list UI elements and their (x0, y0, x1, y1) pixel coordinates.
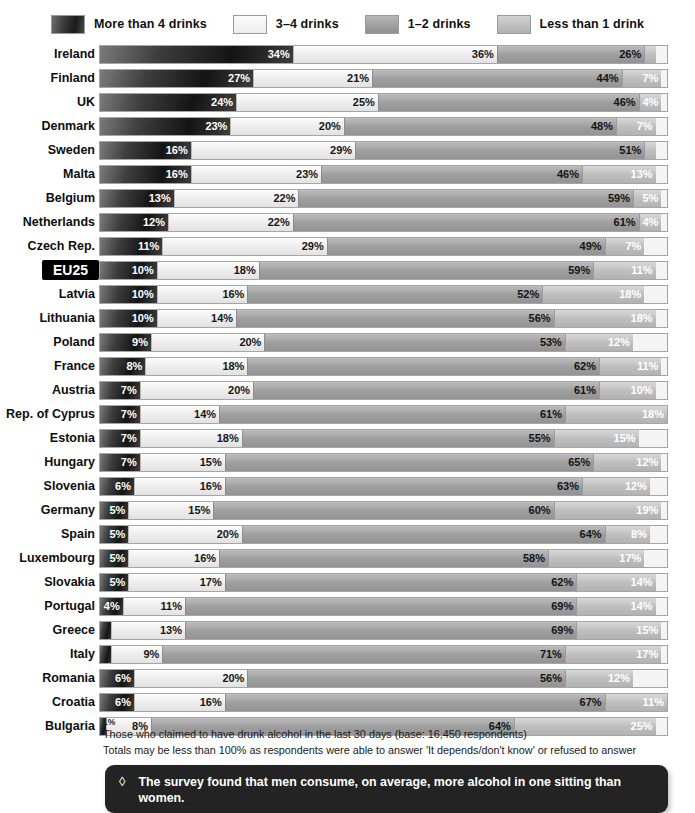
chart-row: Slovakia5%17%62%14% (0, 570, 695, 594)
bar-segment-value: 7% (121, 408, 140, 420)
bar-segment-value: 16% (194, 552, 219, 564)
footnotes: Those who claimed to have drunk alcohol … (103, 726, 683, 758)
chart-row: Greece2%13%69%15% (0, 618, 695, 642)
bar-segment-3: 17% (548, 550, 644, 567)
bar-segment-2: 71% (162, 646, 565, 663)
bar-segment-value: 5% (109, 552, 128, 564)
chart-row: Germany5%15%60%19% (0, 498, 695, 522)
chart-row: France8%18%62%11% (0, 354, 695, 378)
bar-segment-value: 61% (614, 216, 639, 228)
row-label-latvia: Latvia (0, 287, 99, 301)
bar-segment-3: 18% (554, 310, 656, 327)
bar-segment-1: 14% (140, 406, 219, 423)
bar-segment-value: 23% (205, 120, 230, 132)
bar-segment-1: 18% (157, 262, 259, 279)
bar-segment-2: 61% (293, 214, 639, 231)
bar-segment-value: 18% (642, 408, 667, 420)
bar-segment-3: 12% (593, 454, 661, 471)
bar-segment-3: 19% (554, 502, 662, 519)
bar-segment-value: 17% (200, 576, 225, 588)
row-label-romania: Romania (0, 671, 99, 685)
stacked-bar: 5%15%60%19% (99, 501, 668, 520)
bar-segment-0: 12% (100, 214, 168, 231)
bar-segment-1: 20% (128, 526, 241, 543)
bar-segment-2: 58% (219, 550, 548, 567)
bar-segment-3: 14% (576, 598, 655, 615)
bar-segment-value: 18% (222, 360, 247, 372)
bar-segment-3: 11% (599, 358, 661, 375)
bar-segment-1: 36% (293, 46, 497, 63)
bar-segment-value: 59% (568, 264, 593, 276)
bar-segment-2: 46% (321, 166, 582, 183)
bar-segment-value: 53% (540, 336, 565, 348)
bar-segment-value: 52% (517, 288, 542, 300)
bar-segment-value: 25% (353, 96, 378, 108)
chart-row: Slovenia6%16%63%12% (0, 474, 695, 498)
row-label-netherlands: Netherlands (0, 215, 99, 229)
chart-row: Latvia10%16%52%18% (0, 282, 695, 306)
chart-row: Croatia6%16%67%11% (0, 690, 695, 714)
bar-segment-value: 11% (161, 600, 185, 612)
stacked-bar: 11%29%49%7% (99, 237, 668, 256)
bar-segment-value: 59% (608, 192, 633, 204)
chart-row: Poland9%20%53%12% (0, 330, 695, 354)
stacked-bar: 7%18%55%15% (99, 429, 668, 448)
bar-segment-0: 24% (100, 94, 236, 111)
bar-segment-value: 7% (121, 432, 140, 444)
chart-legend: More than 4 drinks3–4 drinks1–2 drinksLe… (0, 12, 695, 36)
bar-segment-2: 48% (344, 118, 616, 135)
bar-segment-value: 71% (540, 648, 565, 660)
bar-segment-value: 58% (523, 552, 548, 564)
row-label-lithuania: Lithuania (0, 311, 99, 325)
bar-segment-0: 2% (100, 646, 111, 663)
stacked-bar: 5%16%58%17% (99, 549, 668, 568)
stacked-bar: 8%18%62%11% (99, 357, 668, 376)
bar-segment-value: 56% (540, 672, 565, 684)
row-label-hungary: Hungary (0, 455, 99, 469)
bar-segment-value: 20% (319, 120, 344, 132)
bar-segment-value: 9% (143, 648, 162, 660)
row-label-finland: Finland (0, 71, 99, 85)
bar-segment-3: 13% (582, 166, 656, 183)
bar-segment-3: 7% (605, 238, 645, 255)
bar-segment-2: 65% (225, 454, 594, 471)
bar-segment-value: 44% (597, 72, 622, 84)
bar-segment-value: 7% (121, 384, 140, 396)
bar-segment-2: 63% (225, 478, 582, 495)
stacked-bar: 13%22%59%5% (99, 189, 668, 208)
bar-segment-value: 22% (268, 216, 293, 228)
bar-segment-0: 5% (100, 574, 128, 591)
bar-segment-2: 56% (236, 310, 554, 327)
bar-segment-value: 36% (472, 48, 497, 60)
bar-segment-value: 13% (631, 168, 656, 180)
stacked-bar: 7%20%61%10% (99, 381, 668, 400)
bar-segment-2: 55% (242, 430, 554, 447)
bar-segment-3: 15% (576, 622, 661, 639)
bar-segment-value: 6% (115, 696, 134, 708)
bar-segment-3: 7% (616, 118, 656, 135)
stacked-bar: 6%16%63%12% (99, 477, 668, 496)
row-label-spain: Spain (0, 527, 99, 541)
chart-row: Rep. of Cyprus7%14%61%18% (0, 402, 695, 426)
bar-segment-1: 15% (140, 454, 225, 471)
bar-segment-value: 20% (228, 384, 253, 396)
bar-segment-1: 15% (128, 502, 213, 519)
bar-segment-0: 23% (100, 118, 230, 135)
bar-segment-1: 18% (145, 358, 247, 375)
bar-segment-value: 69% (551, 624, 576, 636)
bar-segment-value: 49% (580, 240, 605, 252)
bar-segment-value: 9% (132, 336, 151, 348)
bar-segment-value: 27% (228, 72, 253, 84)
bar-segment-2: 56% (247, 670, 565, 687)
bar-segment-2: 62% (247, 358, 599, 375)
bar-segment-2: 26% (497, 46, 644, 63)
bar-segment-value: 20% (239, 336, 264, 348)
bar-segment-value: 15% (614, 432, 639, 444)
row-label-slovenia: Slovenia (0, 479, 99, 493)
bar-segment-2: 69% (185, 622, 576, 639)
bar-segment-value: 8% (126, 360, 145, 372)
bar-segment-3: 8% (605, 526, 650, 543)
bar-segment-0: 5% (100, 526, 128, 543)
bar-segment-0: 8% (100, 358, 145, 375)
bar-segment-value: 63% (557, 480, 582, 492)
